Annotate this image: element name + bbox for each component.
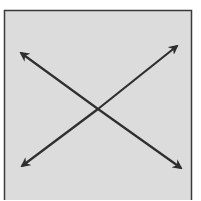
x-arrows-diagram (0, 0, 201, 200)
diagram-box (5, 11, 192, 201)
